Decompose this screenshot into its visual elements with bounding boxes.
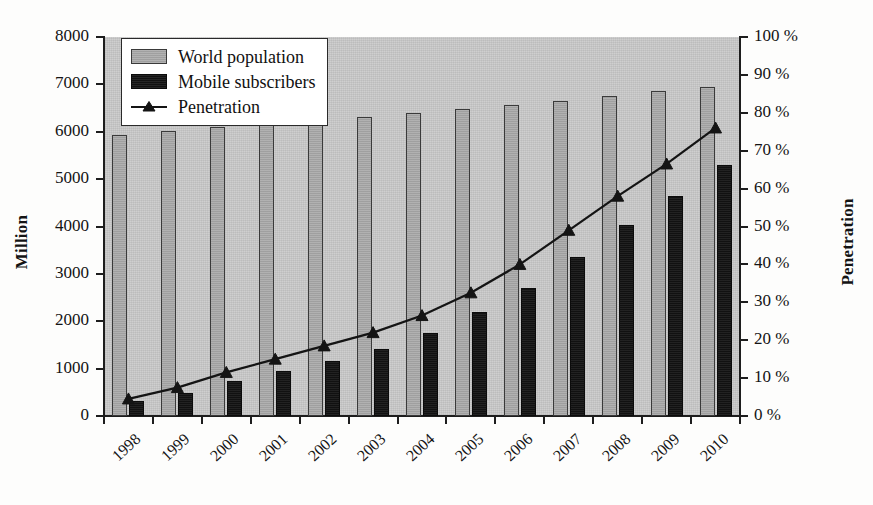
y-axis-right-tick-30 bbox=[739, 301, 748, 303]
x-axis-tick-8 bbox=[494, 415, 496, 424]
y-axis-left-title: Million bbox=[12, 182, 32, 302]
y-axis-left-tick-5000 bbox=[96, 178, 105, 180]
legend-item-penetration: Penetration bbox=[131, 94, 315, 119]
x-axis-tick-10 bbox=[592, 415, 594, 424]
bar-mobile-subscribers-2010 bbox=[717, 165, 732, 416]
x-axis-tick-label-2002: 2002 bbox=[287, 430, 340, 481]
y-axis-right-tick-label-40: 40 % bbox=[754, 253, 789, 273]
bar-mobile-subscribers-2005 bbox=[472, 312, 487, 416]
bar-world-population-2005 bbox=[455, 109, 470, 416]
legend-marker-penetration bbox=[131, 99, 167, 114]
bar-world-population-2004 bbox=[406, 113, 421, 416]
x-axis-tick-11 bbox=[641, 415, 643, 424]
x-axis-tick-6 bbox=[397, 415, 399, 424]
x-axis-tick-12 bbox=[690, 415, 692, 424]
y-axis-right-tick-10 bbox=[739, 377, 748, 379]
bar-world-population-1999 bbox=[161, 131, 176, 416]
x-axis-tick-label-2009: 2009 bbox=[630, 430, 683, 481]
y-axis-right-tick-50 bbox=[739, 226, 748, 228]
y-axis-left-tick-label-0: 0 bbox=[9, 405, 89, 425]
bar-mobile-subscribers-2004 bbox=[423, 333, 438, 416]
y-axis-left-tick-4000 bbox=[96, 226, 105, 228]
bar-mobile-subscribers-2007 bbox=[570, 257, 585, 416]
y-axis-right-tick-label-90: 90 % bbox=[754, 64, 789, 84]
y-axis-right-tick-90 bbox=[739, 74, 748, 76]
y-axis-right-tick-100 bbox=[739, 36, 748, 38]
bar-mobile-subscribers-1998 bbox=[129, 401, 144, 416]
bar-world-population-2000 bbox=[210, 127, 225, 416]
triangle-marker-icon bbox=[131, 99, 167, 114]
x-axis-tick-label-2003: 2003 bbox=[336, 430, 389, 481]
bar-world-population-2002 bbox=[308, 121, 323, 416]
x-axis-tick-label-1999: 1999 bbox=[140, 430, 193, 481]
x-axis-tick-label-1998: 1998 bbox=[91, 430, 144, 481]
bar-mobile-subscribers-1999 bbox=[178, 393, 193, 416]
x-axis-tick-label-2000: 2000 bbox=[189, 430, 242, 481]
bar-world-population-2003 bbox=[357, 117, 372, 416]
y-axis-left-tick-3000 bbox=[96, 273, 105, 275]
y-axis-left-tick-label-2000: 2000 bbox=[9, 310, 89, 330]
y-axis-right-title: Penetration bbox=[838, 182, 858, 302]
x-axis-line bbox=[103, 415, 741, 417]
bar-mobile-subscribers-2006 bbox=[521, 288, 536, 416]
bar-world-population-2009 bbox=[651, 91, 666, 416]
chart-container: Million Penetration 01000200030004000500… bbox=[0, 0, 873, 505]
y-axis-right-tick-label-10: 10 % bbox=[754, 367, 789, 387]
y-axis-right-tick-60 bbox=[739, 188, 748, 190]
legend-item-mobile-subscribers: Mobile subscribers bbox=[131, 69, 315, 94]
y-axis-right-tick-label-100: 100 % bbox=[754, 26, 798, 46]
y-axis-left-tick-label-1000: 1000 bbox=[9, 358, 89, 378]
y-axis-right-tick-40 bbox=[739, 263, 748, 265]
y-axis-left-tick-label-5000: 5000 bbox=[9, 168, 89, 188]
legend-swatch-mobile-subscribers bbox=[131, 74, 167, 89]
y-axis-right-tick-label-80: 80 % bbox=[754, 102, 789, 122]
bar-world-population-2008 bbox=[602, 96, 617, 416]
y-axis-right-tick-label-0: 0 % bbox=[754, 405, 781, 425]
chart-legend: World population Mobile subscribers Pene… bbox=[121, 38, 328, 126]
x-axis-tick-label-2008: 2008 bbox=[581, 430, 634, 481]
x-axis-tick-0 bbox=[103, 415, 105, 424]
x-axis-tick-label-2001: 2001 bbox=[238, 430, 291, 481]
x-axis-tick-3 bbox=[250, 415, 252, 424]
bar-mobile-subscribers-2001 bbox=[276, 371, 291, 416]
y-axis-right-tick-80 bbox=[739, 112, 748, 114]
y-axis-left-tick-1000 bbox=[96, 368, 105, 370]
bar-world-population-1998 bbox=[112, 135, 127, 416]
y-axis-right-tick-20 bbox=[739, 339, 748, 341]
bar-world-population-2001 bbox=[259, 124, 274, 416]
legend-swatch-world-population bbox=[131, 49, 167, 64]
y-axis-right-tick-label-20: 20 % bbox=[754, 329, 789, 349]
x-axis-tick-5 bbox=[348, 415, 350, 424]
x-axis-tick-1 bbox=[152, 415, 154, 424]
x-axis-tick-2 bbox=[201, 415, 203, 424]
y-axis-right-tick-label-70: 70 % bbox=[754, 140, 789, 160]
x-axis-tick-7 bbox=[445, 415, 447, 424]
x-axis-tick-13 bbox=[739, 415, 741, 424]
bar-world-population-2010 bbox=[700, 87, 715, 416]
y-axis-left-tick-label-6000: 6000 bbox=[9, 121, 89, 141]
x-axis-tick-9 bbox=[543, 415, 545, 424]
bar-mobile-subscribers-2002 bbox=[325, 361, 340, 416]
bar-world-population-2006 bbox=[504, 105, 519, 416]
x-axis-tick-label-2007: 2007 bbox=[532, 430, 585, 481]
y-axis-right-tick-label-30: 30 % bbox=[754, 291, 789, 311]
x-axis-tick-label-2005: 2005 bbox=[434, 430, 487, 481]
y-axis-left-tick-label-7000: 7000 bbox=[9, 73, 89, 93]
y-axis-left-tick-2000 bbox=[96, 320, 105, 322]
legend-label-world-population: World population bbox=[178, 48, 304, 66]
legend-label-mobile-subscribers: Mobile subscribers bbox=[178, 73, 315, 91]
y-axis-right-tick-label-60: 60 % bbox=[754, 178, 789, 198]
y-axis-left-tick-label-8000: 8000 bbox=[9, 26, 89, 46]
x-axis-tick-label-2004: 2004 bbox=[385, 430, 438, 481]
y-axis-left-tick-8000 bbox=[96, 36, 105, 38]
y-axis-left-tick-label-3000: 3000 bbox=[9, 263, 89, 283]
bar-mobile-subscribers-2008 bbox=[619, 225, 634, 416]
bar-mobile-subscribers-2009 bbox=[668, 196, 683, 416]
legend-label-penetration: Penetration bbox=[178, 98, 260, 116]
x-axis-tick-4 bbox=[299, 415, 301, 424]
y-axis-right-tick-label-50: 50 % bbox=[754, 216, 789, 236]
x-axis-tick-label-2010: 2010 bbox=[679, 430, 732, 481]
legend-item-world-population: World population bbox=[131, 44, 315, 69]
bar-world-population-2007 bbox=[553, 101, 568, 416]
x-axis-tick-label-2006: 2006 bbox=[483, 430, 536, 481]
